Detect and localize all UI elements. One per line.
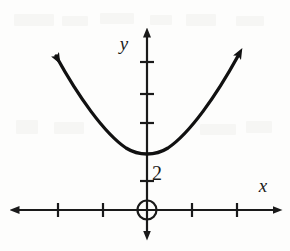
figure-canvas: x y 2 [0,0,290,251]
x-axis-label: x [258,175,268,196]
coordinate-plane-graph: x y 2 [0,0,290,251]
y-axis-label: y [118,33,129,54]
y-intercept-label: 2 [152,162,162,184]
